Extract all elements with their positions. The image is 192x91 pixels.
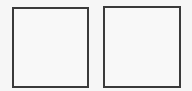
- right-empty-square: [103, 6, 181, 88]
- canvas: [0, 0, 192, 91]
- left-empty-square: [12, 7, 89, 88]
